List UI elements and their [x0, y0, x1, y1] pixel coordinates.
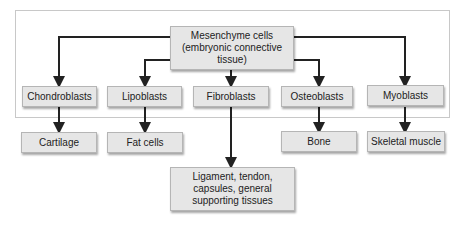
node-label: Chondroblasts: [27, 91, 91, 103]
node-label: Fat cells: [126, 137, 163, 149]
node-ligament-tendon: Ligament, tendon, capsules, general supp…: [170, 167, 295, 211]
node-label: Cartilage: [39, 137, 79, 149]
node-label: Bone: [307, 136, 330, 148]
node-label: Skeletal muscle: [371, 136, 441, 148]
root-line-2: (embryonic connective: [182, 42, 282, 54]
node-osteoblasts: Osteoblasts: [281, 86, 353, 107]
root-line-1: Mesenchyme cells: [182, 30, 282, 42]
root-node-mesenchyme: Mesenchyme cells (embryonic connective t…: [170, 26, 294, 70]
node-myoblasts: Myoblasts: [367, 85, 444, 106]
product-line-2: capsules, general: [192, 183, 273, 195]
node-fat-cells: Fat cells: [107, 132, 183, 153]
node-fibroblasts: Fibroblasts: [193, 86, 269, 107]
product-line-1: Ligament, tendon,: [192, 171, 273, 183]
node-cartilage: Cartilage: [21, 132, 97, 153]
node-chondroblasts: Chondroblasts: [22, 86, 97, 107]
node-label: Myoblasts: [383, 90, 428, 102]
root-line-3: tissue): [182, 54, 282, 66]
node-lipoblasts: Lipoblasts: [107, 86, 182, 107]
node-skeletal-muscle: Skeletal muscle: [367, 131, 445, 152]
node-label: Fibroblasts: [207, 91, 256, 103]
node-label: Osteoblasts: [291, 91, 344, 103]
node-bone: Bone: [281, 131, 357, 152]
product-line-3: supporting tissues: [192, 195, 273, 207]
node-label: Lipoblasts: [122, 91, 167, 103]
